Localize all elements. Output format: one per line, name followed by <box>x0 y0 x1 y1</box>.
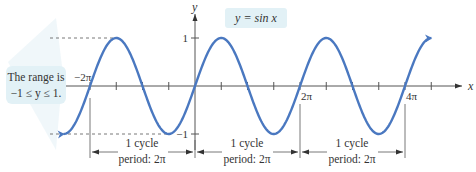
x-axis-label: x <box>467 79 474 93</box>
cycle-3-period: period: 2π <box>328 153 375 166</box>
callout-line-1: The range is <box>8 71 65 84</box>
period-brackets: 1 cycle period: 2π 1 cycle period: 2π 1 … <box>90 98 405 166</box>
cycle-2-period: period: 2π <box>223 153 270 166</box>
callout-line-2: −1 ≤ y ≤ 1. <box>11 87 62 100</box>
cycle-1-label: 1 cycle <box>126 137 159 150</box>
x-tick-label-4pi: 4π <box>406 90 418 102</box>
cycle-1-period: period: 2π <box>118 153 165 166</box>
y-tick-label-1: 1 <box>183 32 189 44</box>
x-tick-label-neg2pi: −2π <box>74 71 92 83</box>
y-tick-label-neg1: −1 <box>176 128 188 140</box>
cycle-3-label: 1 cycle <box>336 137 369 150</box>
function-label-text: y = sin x <box>234 11 277 25</box>
sine-diagram: The range is −1 ≤ y ≤ 1. y = sin x x y 1… <box>0 0 476 172</box>
function-label: y = sin x <box>225 8 287 28</box>
x-tick-label-2pi: 2π <box>301 90 313 102</box>
cycle-2-label: 1 cycle <box>231 137 264 150</box>
y-axis-label: y <box>191 0 198 14</box>
